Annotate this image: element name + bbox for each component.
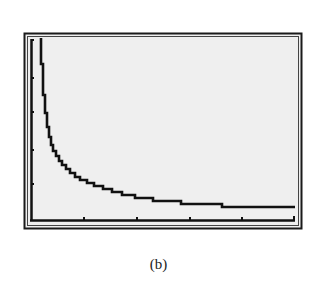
outer-frame bbox=[25, 34, 302, 229]
calculator-graph-screen bbox=[0, 0, 317, 298]
figure-caption: (b) bbox=[0, 256, 317, 273]
